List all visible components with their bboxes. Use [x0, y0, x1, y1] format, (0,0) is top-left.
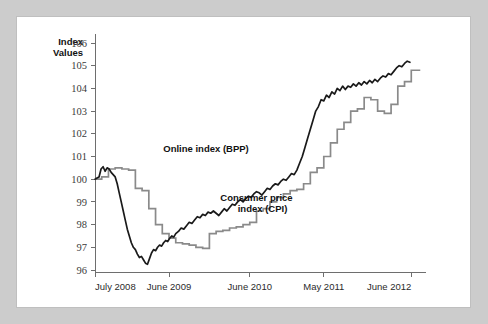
y-tick-label: 101	[71, 151, 87, 162]
y-axis-ticks: 96979899100101102103104105106	[71, 38, 95, 276]
y-axis-title-line2: Values	[53, 47, 83, 58]
y-tick-label: 96	[77, 265, 88, 276]
x-tick-label: July 2008	[95, 281, 136, 292]
series-line-bpp	[95, 61, 410, 264]
x-tick-label: June 2012	[367, 281, 411, 292]
y-tick-label: 99	[77, 197, 88, 208]
x-tick-label: May 2011	[303, 281, 344, 292]
x-tick-label: June 2010	[228, 281, 272, 292]
y-tick-label: 104	[71, 83, 88, 94]
y-tick-label: 97	[77, 242, 88, 253]
series-line-cpi	[95, 70, 420, 248]
cpi-annotation-line2: index (CPI)	[238, 203, 288, 214]
y-tick-label: 103	[71, 106, 87, 117]
chart-annotations: Online index (BPP)Consumer priceindex (C…	[163, 143, 292, 214]
y-tick-label: 102	[71, 128, 87, 139]
index-values-line-chart: Index Values 969798991001011021031041051…	[17, 17, 470, 307]
cpi-annotation-line1: Consumer price	[220, 192, 292, 203]
chart-panel: Index Values 969798991001011021031041051…	[17, 17, 470, 307]
x-tick-label: June 2009	[147, 281, 191, 292]
y-tick-label: 98	[77, 219, 88, 230]
x-axis-ticks: July 2008June 2009June 2010May 2011June …	[95, 272, 411, 292]
y-tick-label: 106	[71, 38, 87, 49]
y-tick-label: 105	[71, 60, 87, 71]
online-index-annotation: Online index (BPP)	[163, 143, 249, 154]
y-tick-label: 100	[71, 174, 87, 185]
